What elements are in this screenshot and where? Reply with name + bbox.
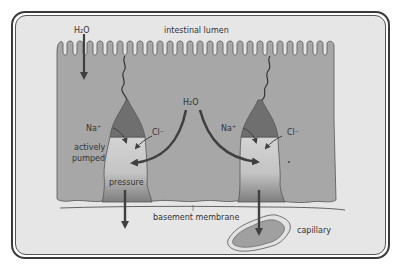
label-basement-membrane: basement membrane	[153, 213, 239, 222]
label-h2o-top: H₂O	[74, 26, 90, 35]
label-intestinal-lumen: intestinal lumen	[164, 26, 229, 35]
intestinal-epithelium-diagram: H₂O intestinal lumen H₂O Na⁺ Cl⁻ Na⁺ Cl⁻…	[0, 0, 403, 271]
label-pressure: pressure	[109, 178, 144, 187]
basement-membrane	[60, 206, 345, 210]
label-na-right: Na⁺	[221, 124, 236, 133]
space-right-lower	[238, 137, 285, 202]
cell-dot	[288, 161, 290, 163]
label-cl-left: Cl⁻	[152, 128, 164, 137]
label-h2o-center: H₂O	[183, 98, 199, 107]
label-capillary: capillary	[297, 226, 331, 235]
label-actively: actively	[74, 143, 106, 152]
cell-layer	[57, 41, 336, 203]
label-pumped: pumped	[72, 154, 105, 163]
epithelial-cells	[57, 41, 336, 203]
label-na-left: Na⁺	[86, 124, 101, 133]
space-left-lower	[102, 137, 152, 202]
label-cl-right: Cl⁻	[287, 128, 299, 137]
